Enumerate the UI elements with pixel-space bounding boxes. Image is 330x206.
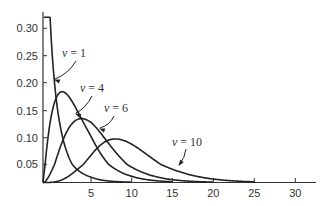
y-tick-label: 0.05 [17,158,38,170]
label-nu-6: ν = 6 [104,101,128,115]
x-tick-label: 30 [289,187,301,199]
arrow-nu-1 [55,61,76,79]
y-tick-label: 0.25 [17,50,38,62]
x-tick-label: 5 [88,187,94,199]
label-nu-1: ν = 1 [62,46,86,60]
label-nu-4: ν = 4 [80,81,104,95]
arrow-nu-6 [100,116,114,128]
y-tick-label: 0.10 [17,132,38,144]
y-tick-label: 0.30 [17,22,38,34]
x-tick-label: 25 [248,187,260,199]
axes [43,12,316,183]
x-tick-label: 15 [166,187,178,199]
x-tick-label: 10 [126,187,138,199]
y-tick-label: 0.15 [17,105,38,117]
curves [43,17,254,182]
chi-square-chart: 0.050.100.150.200.250.30 51015202530 ν =… [0,0,330,206]
y-tick-label: 0.20 [17,77,38,89]
curve-nu-6 [43,119,213,183]
label-nu-10: ν = 10 [172,135,202,149]
arrow-nu-4 [76,96,92,113]
x-tick-label: 20 [207,187,219,199]
arrow-nu-10-head [177,160,184,167]
curve-nu-10 [43,139,254,183]
